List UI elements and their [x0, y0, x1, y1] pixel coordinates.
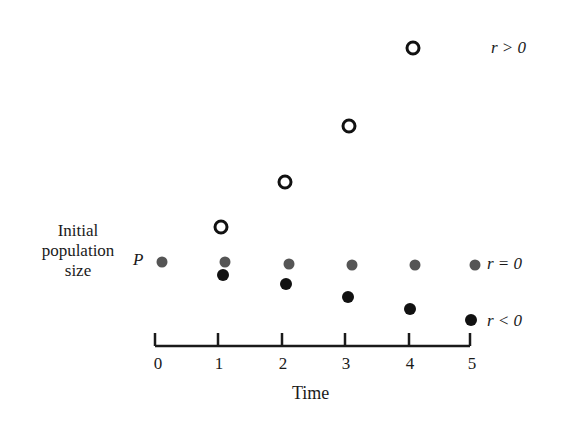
- y-label-line-1: Initial: [28, 221, 128, 241]
- x-tick-1: 1: [209, 354, 229, 374]
- legend-r-negative: r < 0: [487, 311, 522, 331]
- x-tick-2: 2: [273, 354, 293, 374]
- x-tick-4: 4: [400, 354, 420, 374]
- x-tick-3: 3: [336, 354, 356, 374]
- y-label-line-2: population: [28, 241, 128, 261]
- legend-r-zero: r = 0: [487, 254, 522, 274]
- y-label-line-3: size: [28, 261, 128, 281]
- x-axis: [155, 333, 470, 346]
- p-marker-label: P: [133, 250, 143, 270]
- series-r-positive: [215, 42, 419, 233]
- series-r-negative: [217, 269, 477, 326]
- legend-r-positive: r > 0: [491, 38, 526, 58]
- x-tick-0: 0: [148, 354, 168, 374]
- x-axis-label: Time: [292, 383, 329, 404]
- x-tick-5: 5: [462, 354, 482, 374]
- series-r-zero: [157, 257, 481, 271]
- y-axis-label: Initial population size: [28, 221, 128, 281]
